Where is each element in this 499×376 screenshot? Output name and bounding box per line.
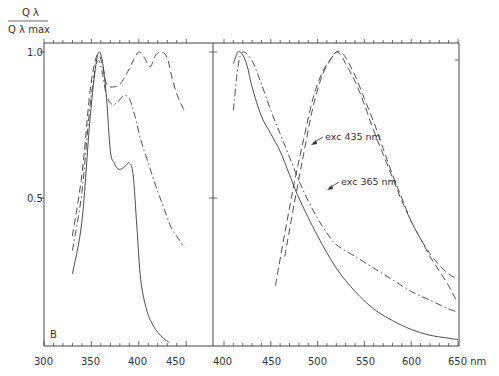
y-tick-label-0-5: 0.5: [27, 193, 43, 204]
x-tick-label: 450: [166, 356, 185, 367]
x-tick-label: 550: [356, 356, 375, 367]
x-tick-label: 450: [262, 356, 281, 367]
curve-excitation-dashed: [72, 52, 184, 236]
x-tick-label: 300: [34, 356, 53, 367]
x-tick-label: 350: [81, 356, 100, 367]
x-tick-label: 400: [128, 356, 147, 367]
annotation-label: exc 435 nm: [325, 131, 381, 142]
x-axis-right-labels: 400 450 500 550 600 650 nm: [213, 356, 486, 367]
spectra-curves: [72, 51, 458, 342]
y-axis-label-numerator: Q λ: [22, 7, 39, 18]
axis-ticks: [40, 39, 459, 346]
x-tick-label: 400: [213, 356, 232, 367]
curve-emission-dashed: [276, 52, 459, 286]
curve-excitation-dash-dot: [72, 61, 184, 251]
annotation-label: exc 365 nm: [341, 176, 397, 187]
annotation-exc-435: exc 435 nm: [311, 131, 381, 145]
curve-emission-solid: [233, 51, 458, 339]
x-axis-left-labels: 300 350 400 450: [34, 356, 185, 367]
plot-frame: [44, 43, 459, 346]
x-tick-label: 600: [402, 356, 421, 367]
arrowhead-icon: [327, 185, 333, 190]
y-tick-label-1: 1.0: [27, 47, 43, 58]
curve-excitation-solid: [72, 52, 169, 343]
panel-letter: B: [50, 329, 57, 340]
x-tick-label: 500: [308, 356, 327, 367]
arrowhead-icon: [311, 140, 317, 145]
y-axis-label-denominator: Q λ max: [8, 24, 50, 35]
annotation-exc-365: exc 365 nm: [327, 176, 397, 190]
x-tick-label: 650 nm: [448, 356, 486, 367]
spectra-figure: Q λ Q λ max 1.0 0.5 300 350 400 450 400 …: [0, 0, 499, 376]
